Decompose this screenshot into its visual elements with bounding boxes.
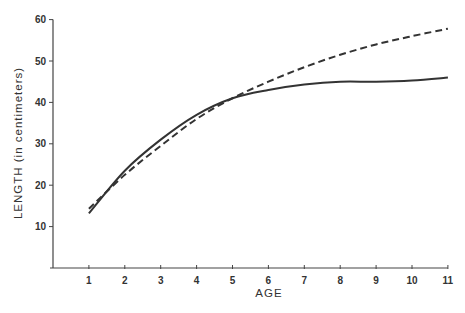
x-tick-label: 10: [406, 275, 418, 286]
x-tick-label: 5: [230, 275, 236, 286]
x-axis-title: AGE: [255, 287, 282, 299]
x-tick-label: 6: [266, 275, 272, 286]
y-tick-label: 60: [35, 14, 47, 25]
x-tick-label: 8: [337, 275, 343, 286]
y-tick-label: 30: [35, 138, 47, 149]
series-lines: [89, 29, 448, 214]
series-line-dashed: [89, 29, 448, 209]
series-line-solid: [89, 78, 448, 214]
line-chart: 1020304050601234567891011 LENGTH (in cen…: [0, 0, 465, 313]
y-tick-label: 10: [35, 221, 47, 232]
y-tick-label: 20: [35, 180, 47, 191]
x-tick-label: 2: [122, 275, 128, 286]
x-tick-label: 1: [86, 275, 92, 286]
x-tick-label: 9: [373, 275, 379, 286]
x-tick-label: 3: [158, 275, 164, 286]
x-tick-label: 7: [302, 275, 308, 286]
y-tick-label: 40: [35, 97, 47, 108]
x-tick-label: 11: [443, 275, 454, 286]
y-tick-label: 50: [35, 56, 47, 67]
x-tick-label: 4: [194, 275, 200, 286]
y-axis-title: LENGTH (in centimeters): [12, 67, 24, 219]
axes: 1020304050601234567891011: [35, 14, 454, 286]
